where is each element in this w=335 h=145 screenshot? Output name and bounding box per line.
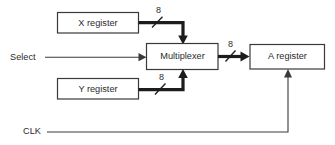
bus-x-to-multiplexer-path [139, 23, 184, 39]
bus-y-to-multiplexer-arrowhead [178, 69, 188, 78]
block-multiplexer: Multiplexer [147, 44, 219, 70]
signal-select: Select [10, 52, 147, 62]
select-arrowhead [139, 53, 147, 61]
bus-x-to-multiplexer: 8 [139, 5, 188, 45]
multiplexer-label: Multiplexer [160, 51, 204, 61]
clk-arrowhead [284, 69, 292, 78]
bus-x-width-label: 8 [156, 5, 161, 15]
block-a-register: A register [250, 45, 325, 70]
bus-y-to-multiplexer: 8 [139, 69, 188, 95]
diagram-canvas: X register 8 Multiplexer Select Y regist… [0, 0, 335, 145]
bus-mux-out-width-label: 8 [228, 39, 233, 49]
block-diagram: X register 8 Multiplexer Select Y regist… [0, 0, 335, 145]
x-register-label: X register [78, 18, 117, 28]
y-register-label: Y register [78, 84, 117, 94]
block-x-register: X register [58, 13, 139, 34]
bus-y-width-label: 8 [159, 72, 164, 82]
block-y-register: Y register [58, 79, 139, 100]
clk-label: CLK [23, 126, 42, 136]
select-label: Select [10, 52, 36, 62]
bus-multiplexer-to-a-register-arrowhead [241, 51, 250, 61]
a-register-label: A register [268, 51, 307, 61]
bus-multiplexer-to-a-register: 8 [218, 39, 250, 62]
